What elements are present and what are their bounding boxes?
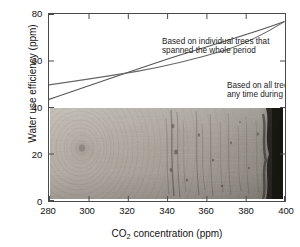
x-tick-label-400: 400: [266, 206, 300, 216]
annotation-all-trees: Based on all trees sampled any time duri…: [227, 81, 286, 100]
y-tick-label-80: 80: [0, 9, 42, 19]
x-tick-label-300: 300: [67, 206, 107, 216]
x-tick-label-320: 320: [107, 206, 147, 216]
x-tick-label-360: 360: [186, 206, 226, 216]
y-tick-label-20: 20: [0, 150, 42, 160]
y-tick-label-40: 40: [0, 103, 42, 113]
annotation-individual-trees-line-2: spanned the whole period: [162, 46, 269, 55]
x-tick-label-380: 380: [226, 206, 266, 216]
x-axis-label: CO2 concentration (ppm): [48, 228, 286, 240]
annotation-all-trees-line-1: Based on all trees sampled: [227, 81, 286, 90]
plot-area: Based on individual trees that spanned t…: [48, 13, 286, 202]
x-axis-label-subscript: 2: [127, 232, 131, 241]
annotation-individual-trees-line-1: Based on individual trees that: [162, 37, 269, 46]
y-axis-label: Water use efficiency (ppm): [27, 4, 38, 164]
x-axis-label-post: concentration (ppm): [131, 228, 223, 239]
figure: Water use efficiency (ppm) 80 60 40 20 0…: [0, 0, 300, 247]
x-tick-label-280: 280: [28, 206, 68, 216]
y-tick-label-60: 60: [0, 56, 42, 66]
annotation-individual-trees: Based on individual trees that spanned t…: [162, 37, 269, 56]
annotation-all-trees-line-2: any time during the period: [227, 90, 286, 99]
x-axis-label-pre: CO: [112, 228, 127, 239]
x-tick-label-340: 340: [147, 206, 187, 216]
